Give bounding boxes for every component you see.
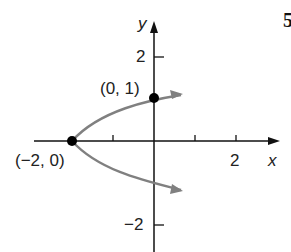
point-neg2-0 bbox=[67, 136, 77, 146]
y-axis-label: y bbox=[138, 15, 147, 32]
point-0-1 bbox=[149, 93, 159, 103]
point-label-neg2-0: (−2, 0) bbox=[15, 152, 65, 169]
y-tick-label-neg2: −2 bbox=[124, 216, 143, 233]
y-tick-label-2: 2 bbox=[136, 48, 145, 65]
parabola-curve bbox=[72, 95, 181, 190]
x-tick-label-2: 2 bbox=[230, 152, 239, 169]
upper-curve-arrow-icon bbox=[170, 90, 183, 99]
graph-canvas bbox=[0, 0, 291, 252]
y-axis-arrow-icon bbox=[150, 21, 158, 33]
x-axis-arrow-icon bbox=[268, 137, 280, 145]
x-ticks bbox=[113, 135, 236, 141]
point-label-0-1: (0, 1) bbox=[100, 80, 140, 97]
x-axis-label: x bbox=[268, 152, 277, 169]
problem-number: 5 bbox=[283, 9, 291, 32]
